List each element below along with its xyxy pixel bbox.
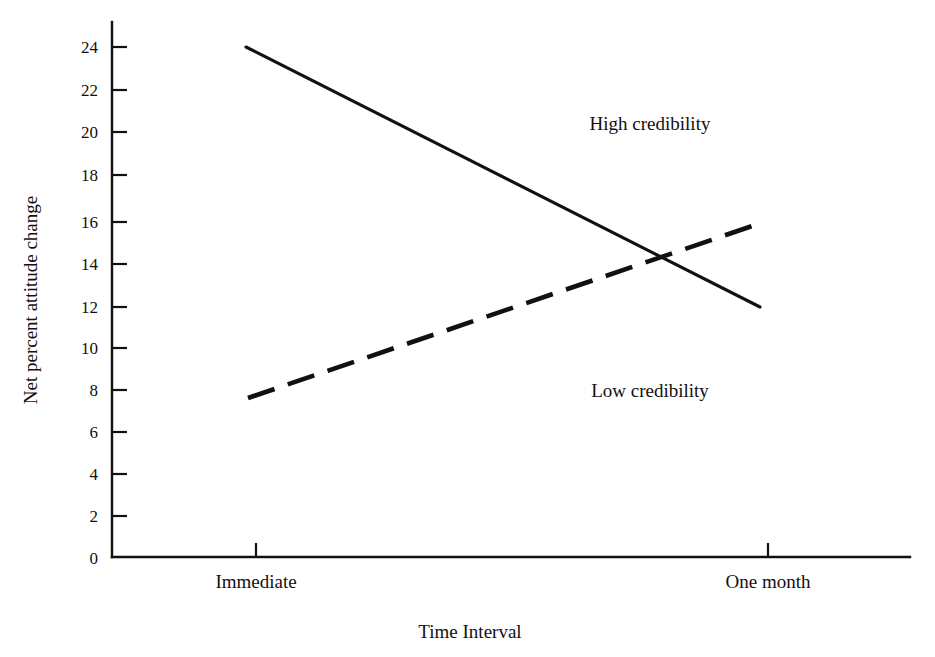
line-chart-svg: 24 22 20 18 16 14 12 10 8 6 4 2 0 Immedi…: [0, 0, 935, 657]
x-axis-ticks: [256, 543, 768, 557]
y-tick-label-2: 2: [90, 507, 99, 526]
y-tick-label-18: 18: [81, 166, 98, 185]
series-line-low-credibility: [248, 222, 764, 398]
x-tick-label-immediate: Immediate: [215, 571, 296, 592]
x-axis-title: Time Interval: [418, 621, 521, 642]
y-tick-label-14: 14: [81, 255, 99, 274]
x-axis-tick-labels: Immediate One month: [215, 571, 811, 592]
chart-figure: 24 22 20 18 16 14 12 10 8 6 4 2 0 Immedi…: [0, 0, 935, 657]
y-tick-label-22: 22: [81, 81, 98, 100]
y-tick-label-6: 6: [90, 423, 99, 442]
series-label-low-credibility: Low credibility: [591, 380, 709, 401]
series-annotations: High credibility Low credibility: [590, 113, 711, 401]
series-label-high-credibility: High credibility: [590, 113, 711, 134]
y-tick-label-20: 20: [81, 123, 98, 142]
y-tick-label-16: 16: [81, 213, 98, 232]
y-axis-ticks: [112, 47, 127, 516]
y-tick-label-12: 12: [81, 298, 98, 317]
series-line-high-credibility: [246, 47, 760, 307]
series-lines: [246, 47, 764, 398]
y-tick-label-24: 24: [81, 38, 99, 57]
x-tick-label-one-month: One month: [726, 571, 811, 592]
y-tick-label-4: 4: [90, 465, 99, 484]
y-tick-label-10: 10: [81, 339, 98, 358]
y-axis-title: Net percent attitude change: [20, 196, 41, 404]
y-axis-tick-labels: 24 22 20 18 16 14 12 10 8 6 4 2 0: [81, 38, 99, 568]
axis-lines: [112, 22, 910, 557]
y-tick-label-8: 8: [90, 381, 99, 400]
y-tick-label-0: 0: [90, 549, 99, 568]
